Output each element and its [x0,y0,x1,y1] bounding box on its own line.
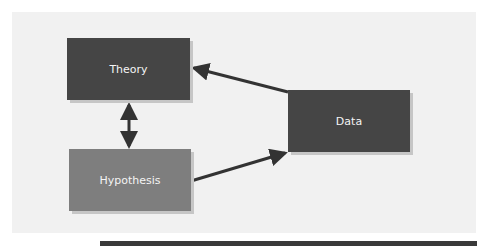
arrow-data-to-theory [194,68,288,92]
node-data: Data [288,90,410,152]
node-theory-label: Theory [109,63,147,76]
node-hypothesis: Hypothesis [69,149,191,211]
node-data-label: Data [336,115,362,128]
node-hypothesis-label: Hypothesis [99,174,160,187]
arrow-hypothesis-to-data [191,153,285,181]
bottom-rule [100,241,477,246]
node-theory: Theory [67,38,190,100]
